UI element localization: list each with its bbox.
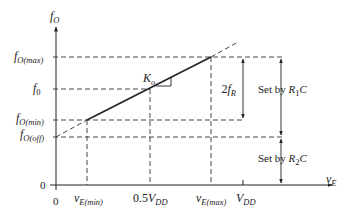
label-vdd: VDD — [236, 191, 256, 207]
set-r1c-label: Set by R1C — [258, 83, 308, 98]
x-axis-title: vE — [326, 172, 337, 188]
label-fmin: fO(min) — [16, 111, 44, 127]
extrapolation-high — [211, 42, 238, 57]
y-axis-title: fO — [50, 9, 59, 25]
label-foff: fO(off) — [20, 127, 44, 143]
range-label: 2fR — [221, 82, 236, 98]
label-half-vdd: 0.5VDD — [133, 191, 168, 207]
label-x-zero: 0 — [53, 195, 59, 207]
label-f0: f0 — [33, 81, 41, 97]
label-y-zero: 0 — [40, 179, 46, 191]
characteristic-line — [87, 57, 211, 120]
set-r2c-label: Set by R2C — [258, 152, 308, 167]
label-vemax: vE(max) — [196, 191, 227, 207]
label-vemin: vE(min) — [74, 191, 103, 207]
label-fmax: fO(max) — [14, 49, 43, 65]
vco-characteristic-diagram: fO fO(max) f0 fO(min) fO(off) 0 0 vE(min… — [0, 0, 350, 215]
slope-label: Ko — [142, 71, 155, 87]
extrapolation-low — [56, 120, 87, 137]
